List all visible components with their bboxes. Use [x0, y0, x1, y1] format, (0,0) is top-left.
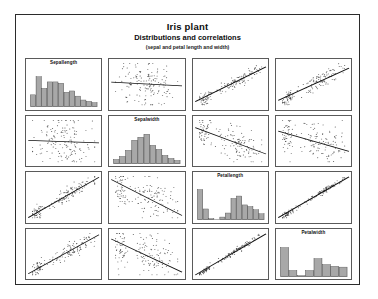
scatter-panel-petalwidth-vs-petallength: [275, 171, 352, 224]
scatter-panel-sepallength-vs-sepalwidth: [25, 115, 102, 168]
scatter-panel-sepalwidth-vs-petalwidth: [108, 228, 185, 281]
scatter-panel-petalwidth-vs-sepallength: [275, 58, 352, 111]
scatter-panel-petallength-vs-sepallength: [192, 58, 269, 111]
page-title: Iris plant: [16, 21, 359, 33]
chart-annotation: (sepal and petal length and width): [16, 43, 359, 51]
histogram-panel-sepalwidth: Sepalwidth: [108, 115, 185, 168]
histogram-panel-petalwidth: Petalwidth: [275, 228, 352, 281]
scatter-panel-sepalwidth-vs-petallength: [108, 171, 185, 224]
scatter-panel-petallength-vs-sepalwidth: [192, 115, 269, 168]
chart-subtitle: Distributions and correlations: [16, 33, 359, 43]
scatterplot-matrix: SepallengthSepalwidthPetallengthPetalwid…: [25, 58, 352, 280]
scatter-panel-sepallength-vs-petallength: [25, 171, 102, 224]
figure-frame: Iris plant Distributions and correlation…: [15, 14, 360, 285]
scatter-panel-sepallength-vs-petalwidth: [25, 228, 102, 281]
histogram-panel-sepallength: Sepallength: [25, 58, 102, 111]
scatter-panel-petallength-vs-petalwidth: [192, 228, 269, 281]
title-block: Iris plant Distributions and correlation…: [16, 21, 359, 51]
scatter-panel-sepalwidth-vs-sepallength: [108, 58, 185, 111]
histogram-panel-petallength: Petallength: [192, 171, 269, 224]
scatter-panel-petalwidth-vs-sepalwidth: [275, 115, 352, 168]
